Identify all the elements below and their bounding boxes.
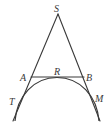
label-r: R: [53, 66, 60, 77]
line-s-t: [13, 14, 58, 121]
label-b: B: [86, 72, 92, 83]
circle-arc: [15, 78, 99, 122]
geometry-diagram: S A R B T M: [0, 0, 112, 135]
label-t: T: [9, 96, 16, 107]
label-a: A: [19, 72, 27, 83]
label-m: M: [94, 93, 104, 104]
line-s-m: [58, 14, 100, 121]
label-s: S: [54, 3, 59, 14]
